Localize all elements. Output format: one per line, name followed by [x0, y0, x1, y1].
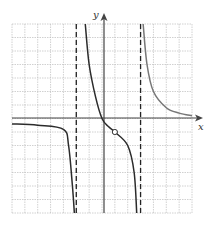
hole-point [112, 129, 117, 134]
axes: y x [12, 9, 204, 213]
x-axis-label: x [198, 121, 204, 132]
y-axis-label: y [92, 9, 99, 20]
graph: y x [0, 0, 217, 226]
